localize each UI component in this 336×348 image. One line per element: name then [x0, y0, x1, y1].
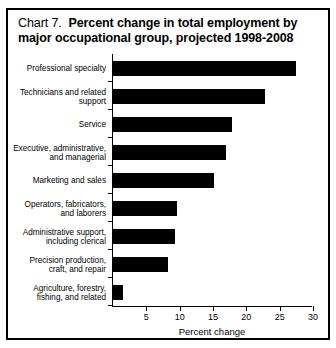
x-axis-line: [112, 306, 312, 307]
x-axis-tick-label: 20: [234, 312, 258, 322]
x-axis-tick: [213, 306, 214, 311]
bar: [113, 285, 123, 300]
bar-row: Precision production, craft, and repair: [8, 250, 328, 278]
chart-title-prefix: Chart 7.: [18, 16, 62, 30]
x-axis-tick-label: 5: [134, 312, 158, 322]
x-axis-tick-label: 30: [301, 312, 325, 322]
x-axis-tick: [246, 306, 247, 311]
category-label: Administrative support, including cleric…: [10, 228, 106, 247]
x-axis-tick: [146, 306, 147, 311]
bar-row: Marketing and sales: [8, 166, 328, 194]
bar-row: Operators, fabricators, and laborers: [8, 194, 328, 222]
bar-row: Executive, administrative, and manageria…: [8, 138, 328, 166]
category-label: Agriculture, forestry, fishing, and rela…: [10, 284, 106, 303]
category-label: Executive, administrative, and manageria…: [10, 144, 106, 163]
x-axis-tick: [313, 306, 314, 311]
bar-row: Technicians and related support: [8, 82, 328, 110]
x-axis-tick-label: 15: [201, 312, 225, 322]
x-axis-tick: [280, 306, 281, 311]
bar: [113, 201, 177, 216]
bar: [113, 61, 296, 76]
bar-row: Service: [8, 110, 328, 138]
bar: [113, 145, 226, 160]
x-axis-title: Percent change: [112, 326, 312, 337]
bar: [113, 89, 265, 104]
bar: [113, 117, 232, 132]
bar-row: Professional specialty: [8, 54, 328, 82]
bar-row: Agriculture, forestry, fishing, and rela…: [8, 278, 328, 306]
plot-area: Professional specialtyTechnicians and re…: [8, 54, 328, 310]
chart-frame: Chart 7. Percent change in total employm…: [6, 8, 330, 340]
category-label: Professional specialty: [10, 64, 106, 73]
category-label: Marketing and sales: [10, 176, 106, 185]
chart-title: Chart 7. Percent change in total employm…: [18, 16, 324, 46]
category-label: Operators, fabricators, and laborers: [10, 200, 106, 219]
y-axis-tick: [108, 305, 113, 306]
x-axis-tick-label: 10: [168, 312, 192, 322]
x-axis-tick: [180, 306, 181, 311]
bar: [113, 257, 168, 272]
category-label: Service: [10, 120, 106, 129]
category-label: Technicians and related support: [10, 88, 106, 107]
bar: [113, 229, 175, 244]
bar: [113, 173, 214, 188]
x-axis-tick-label: 25: [268, 312, 292, 322]
bar-row: Administrative support, including cleric…: [8, 222, 328, 250]
category-label: Precision production, craft, and repair: [10, 256, 106, 275]
